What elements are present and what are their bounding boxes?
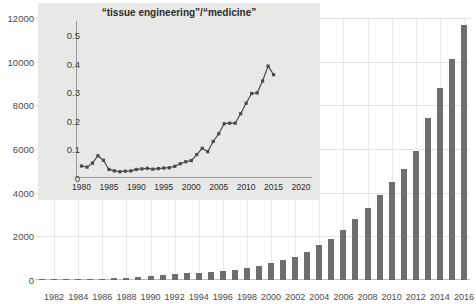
inset-data-marker: [151, 168, 154, 171]
inset-data-marker: [124, 170, 127, 173]
bar: [220, 271, 226, 280]
bar: [160, 275, 166, 280]
inset-x-tick-label: 1980: [72, 182, 91, 192]
bar: [268, 263, 274, 280]
bar: [316, 245, 322, 280]
bar: [148, 276, 154, 280]
inset-data-marker: [206, 150, 209, 153]
inset-chart-title: “tissue engineering”/“medicine”: [102, 7, 256, 18]
bar: [328, 239, 334, 280]
bar: [208, 272, 214, 281]
inset-data-marker: [91, 162, 94, 165]
main-y-tick-label: 4000: [0, 187, 34, 198]
main-x-tick-label: 2008: [358, 292, 378, 302]
bar: [365, 208, 371, 280]
inset-data-marker: [212, 140, 215, 143]
main-x-tick-label: 1982: [44, 292, 64, 302]
main-x-tick-label: 2004: [309, 292, 329, 302]
main-x-tick-label: 1990: [141, 292, 161, 302]
inset-data-marker: [228, 122, 231, 125]
bar: [63, 279, 69, 280]
main-x-tick-label: 2006: [333, 292, 353, 302]
bar: [413, 151, 419, 280]
main-x-axis: 1982198419861988199019921994199619982000…: [0, 282, 476, 304]
bar: [352, 219, 358, 280]
inset-x-tick-label: 2015: [264, 182, 283, 192]
bar: [51, 279, 57, 280]
inset-y-tick-label: 0.2: [46, 115, 80, 126]
main-x-tick-label: 2010: [382, 292, 402, 302]
main-x-tick-label: 1998: [237, 292, 257, 302]
bar: [449, 59, 455, 280]
inset-x-tick-label: 1990: [127, 182, 146, 192]
bar: [111, 278, 117, 280]
bar: [280, 260, 286, 280]
inset-line-chart-panel: “tissue engineering”/“medicine” 00.10.20…: [38, 3, 320, 200]
inset-x-tick-label: 2020: [292, 182, 311, 192]
bar: [292, 257, 298, 280]
inset-data-marker: [256, 91, 259, 94]
main-x-tick-label: 1992: [165, 292, 185, 302]
main-x-tick-label: 1986: [92, 292, 112, 302]
inset-y-tick-label: 0.1: [46, 144, 80, 155]
inset-data-marker: [129, 169, 132, 172]
inset-data-marker: [102, 159, 105, 162]
bar: [304, 252, 310, 280]
bar: [377, 195, 383, 280]
inset-data-marker: [195, 153, 198, 156]
inset-data-marker: [118, 170, 121, 173]
inset-data-marker: [107, 168, 110, 171]
main-y-tick-label: 0: [0, 275, 34, 286]
inset-data-marker: [80, 164, 83, 167]
inset-data-marker: [239, 112, 242, 115]
bar: [39, 279, 45, 280]
inset-data-marker: [140, 167, 143, 170]
inset-data-marker: [201, 147, 204, 150]
inset-data-marker: [179, 162, 182, 165]
inset-data-marker: [261, 79, 264, 82]
bar: [123, 278, 129, 280]
bar: [75, 279, 81, 280]
bar: [196, 273, 202, 280]
main-x-tick-label: 1996: [213, 292, 233, 302]
bar: [244, 268, 250, 280]
inset-data-marker: [168, 166, 171, 169]
inset-data-marker: [266, 65, 269, 68]
bar: [256, 266, 262, 280]
main-x-tick-label: 2012: [406, 292, 426, 302]
main-y-tick-label: 2000: [0, 231, 34, 242]
inset-x-tick-label: 1995: [154, 182, 173, 192]
bar: [87, 279, 93, 280]
bar: [99, 279, 105, 280]
inset-data-marker: [85, 166, 88, 169]
inset-series-path: [76, 21, 312, 178]
inset-data-marker: [223, 122, 226, 125]
main-x-tick-label: 2002: [285, 292, 305, 302]
inset-x-tick-label: 1985: [99, 182, 118, 192]
main-x-tick-label: 2014: [430, 292, 450, 302]
main-x-tick-label: 1994: [189, 292, 209, 302]
bar: [184, 273, 190, 280]
bar: [437, 88, 443, 280]
bar: [425, 118, 431, 280]
inset-x-tick-label: 2005: [209, 182, 228, 192]
inset-data-marker: [173, 165, 176, 168]
inset-data-marker: [184, 160, 187, 163]
inset-data-marker: [113, 169, 116, 172]
bar: [401, 169, 407, 280]
inset-plot-area: [76, 21, 312, 178]
main-y-tick-label: 10000: [0, 56, 34, 67]
inset-line-path: [81, 66, 273, 172]
inset-data-marker: [162, 166, 165, 169]
main-y-tick-label: 6000: [0, 144, 34, 155]
bar: [232, 270, 238, 280]
main-x-tick-label: 2000: [261, 292, 281, 302]
inset-data-marker: [190, 159, 193, 162]
main-x-tick-label: 1988: [116, 292, 136, 302]
inset-data-marker: [234, 122, 237, 125]
inset-data-marker: [96, 154, 99, 157]
inset-data-marker: [146, 167, 149, 170]
main-y-tick-label: 8000: [0, 100, 34, 111]
bar: [461, 25, 467, 280]
inset-data-marker: [135, 168, 138, 171]
